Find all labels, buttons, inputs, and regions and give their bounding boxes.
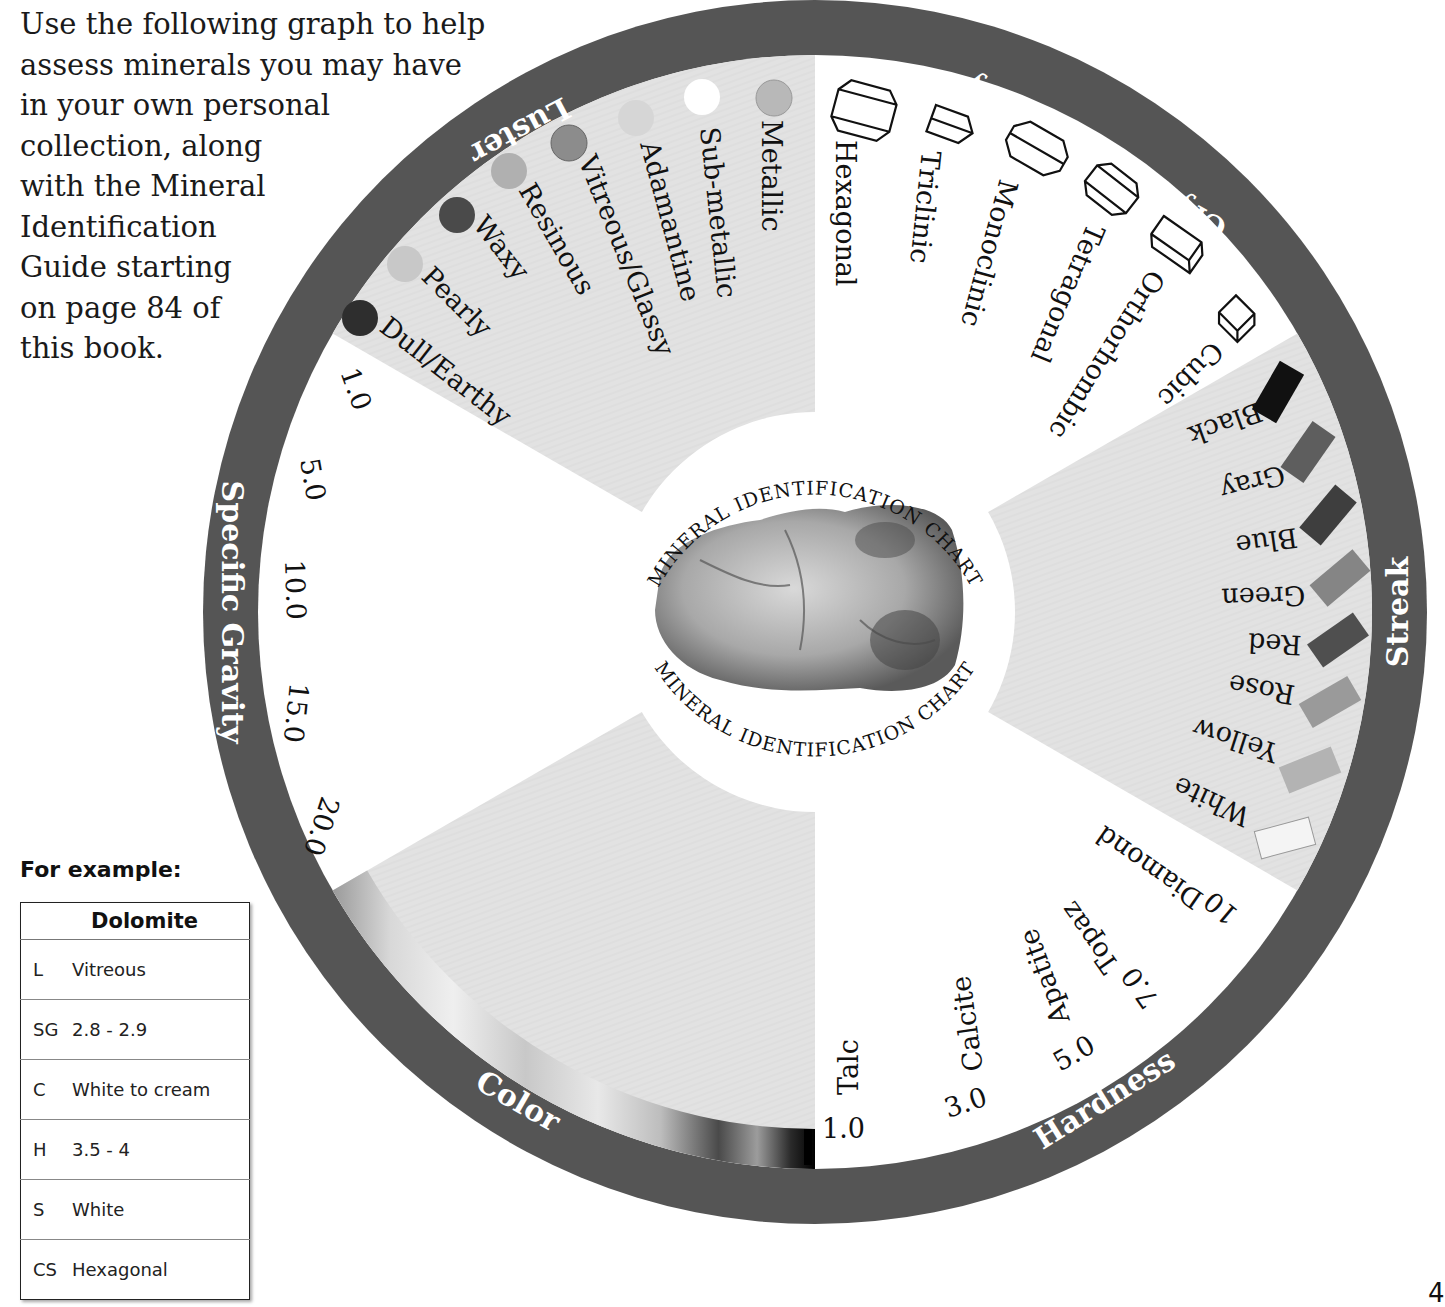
example-row-key: CS: [21, 1240, 71, 1300]
example-row: H3.5 - 4: [21, 1120, 250, 1180]
luster-swatch-metallic: [756, 80, 792, 116]
example-row: CSHexagonal: [21, 1240, 250, 1300]
example-row-value: White: [70, 1180, 250, 1240]
luster-item-metallic: Metallic: [756, 120, 787, 232]
hardness-value-1: 1.0: [822, 1113, 865, 1144]
example-mineral-name: Dolomite: [21, 903, 250, 940]
example-row-value: Vitreous: [70, 940, 250, 1000]
example-row: SWhite: [21, 1180, 250, 1240]
example-row-value: Hexagonal: [70, 1240, 250, 1300]
example-row-key: SG: [21, 1000, 71, 1060]
example-heading: For example:: [20, 857, 182, 882]
luster-swatch-pearly: [387, 246, 423, 282]
page-number: 4: [1428, 1278, 1445, 1307]
example-row: SG2.8 - 2.9: [21, 1000, 250, 1060]
luster-swatch-resinous: [491, 153, 527, 189]
example-row-value: 2.8 - 2.9: [70, 1000, 250, 1060]
hardness-mineral-talc: Talc: [833, 1039, 864, 1095]
example-row-key: H: [21, 1120, 71, 1180]
sg-value-10: 10.0: [279, 559, 312, 620]
luster-swatch-sub-metallic: [684, 79, 720, 115]
streak-item-green: Green: [1221, 580, 1306, 614]
example-row-value: White to cream: [70, 1060, 250, 1120]
example-row-key: S: [21, 1180, 71, 1240]
example-row: LVitreous: [21, 940, 250, 1000]
specific-gravity-title: Specific Gravity: [215, 481, 250, 745]
sg-value-15: 15.0: [278, 681, 315, 744]
example-row-key: L: [21, 940, 71, 1000]
streak-title: Streak: [1380, 555, 1415, 667]
luster-swatch-dull-earthy: [342, 300, 378, 336]
example-row: CWhite to cream: [21, 1060, 250, 1120]
luster-swatch-adamantine: [618, 100, 654, 136]
example-row-key: C: [21, 1060, 71, 1120]
streak-item-red: Red: [1247, 627, 1302, 661]
example-table: Dolomite LVitreous SG2.8 - 2.9 CWhite to…: [20, 902, 250, 1300]
example-row-value: 3.5 - 4: [70, 1120, 250, 1180]
luster-swatch-vitreous: [551, 125, 587, 161]
crystal-item-hexagonal: Hexagonal: [830, 140, 861, 287]
